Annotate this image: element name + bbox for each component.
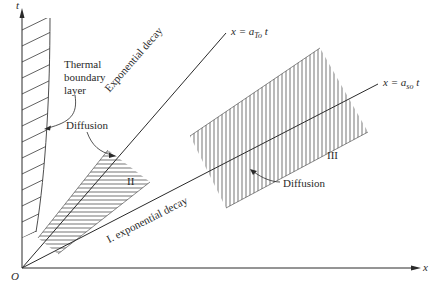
region-II-outline (38, 150, 150, 254)
boundary-layer-label-line2: boundary (64, 71, 106, 83)
thermal-front-eq-suffix: t (262, 25, 268, 37)
origin-label: O (11, 270, 19, 282)
sound-front-eq-prefix: x = a (383, 76, 406, 88)
sound-front-line (22, 84, 378, 268)
thermal-front-eq-subscript: To (254, 31, 262, 40)
region-III-arrow-icon (250, 169, 257, 175)
sound-front-equation: x = aso t (383, 76, 419, 90)
t-axis-label: t (16, 0, 19, 11)
thermal-front-equation: x = aTo t (231, 25, 268, 39)
region-II-arrow-icon (109, 153, 116, 159)
region-III-label: III (327, 149, 338, 161)
region-II-leader (87, 132, 112, 155)
boundary-layer-label-line1: Thermal (64, 58, 101, 70)
t-axis-arrow-icon (20, 8, 25, 18)
boundary-layer-edge (36, 18, 50, 232)
thermal-front-eq-prefix: x = a (231, 25, 254, 37)
x-axis-arrow-icon (411, 266, 421, 271)
sound-front-eq-subscript: so (406, 82, 413, 91)
region-II-hatch (20, 152, 160, 252)
wave-regions-diagram: t x O Thermal boundary layer Diffusion I… (0, 0, 433, 285)
sound-front-eq-suffix: t (413, 76, 419, 88)
region-III-diffusion-label: Diffusion (283, 177, 325, 189)
diagram-graphics (0, 0, 433, 285)
x-axis-label: x (423, 261, 428, 273)
region-III-hatch (190, 40, 366, 215)
region-II-label: II (127, 175, 134, 187)
boundary-layer-label-line3: layer (64, 84, 86, 96)
region-III-outline (190, 48, 368, 208)
region-II-diffusion-label: Diffusion (66, 119, 108, 131)
